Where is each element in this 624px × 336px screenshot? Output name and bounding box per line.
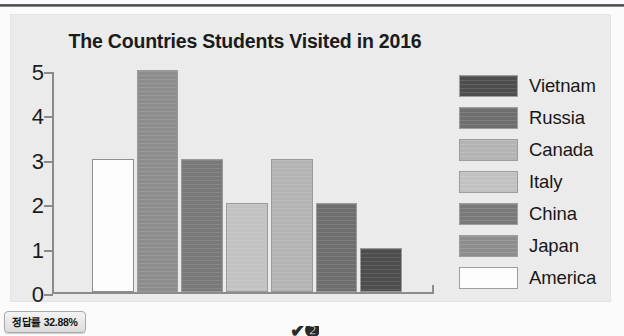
y-axis-tick bbox=[44, 294, 53, 296]
y-axis-tick-label: 3 bbox=[32, 151, 44, 173]
legend-label: Vietnam bbox=[529, 75, 596, 97]
y-axis-tick-label: 1 bbox=[32, 240, 44, 262]
legend-swatch-japan bbox=[459, 235, 518, 257]
legend-label: Russia bbox=[529, 107, 585, 129]
bar-series bbox=[92, 70, 402, 292]
legend-swatch-america bbox=[459, 267, 518, 289]
y-axis-line bbox=[52, 72, 54, 294]
bar-america bbox=[92, 159, 134, 292]
legend-label: China bbox=[529, 203, 577, 225]
legend-swatch-russia bbox=[459, 107, 518, 129]
plot-area: 543210 bbox=[52, 58, 443, 294]
legend-label: Japan bbox=[529, 235, 579, 257]
y-axis-tick-label: 4 bbox=[32, 106, 44, 128]
x-axis-end-cap bbox=[432, 285, 434, 294]
legend-label: Canada bbox=[529, 139, 593, 161]
scanned-page: rate of the students who visited the cou… bbox=[0, 0, 624, 336]
legend-swatch-canada bbox=[459, 139, 518, 161]
y-axis-tick bbox=[44, 161, 53, 163]
legend-item-america: America bbox=[459, 262, 609, 294]
legend-item-russia: Russia bbox=[459, 102, 609, 134]
legend-item-china: China bbox=[459, 198, 609, 230]
page-top-rule bbox=[0, 4, 624, 7]
y-axis-tick bbox=[44, 116, 53, 118]
legend-item-japan: Japan bbox=[459, 230, 609, 262]
legend-swatch-china bbox=[459, 203, 518, 225]
y-axis-tick-label: 0 bbox=[32, 284, 44, 306]
bar-chart-figure: The Countries Students Visited in 2016 5… bbox=[10, 14, 611, 302]
check-mark-icon: ✔❷ bbox=[290, 326, 319, 336]
y-axis-tick bbox=[44, 250, 53, 252]
legend-item-italy: Italy bbox=[459, 166, 609, 198]
legend-label: America bbox=[529, 267, 596, 289]
correct-rate-badge: 정답률 32.88% bbox=[4, 311, 86, 333]
bar-canada bbox=[271, 159, 313, 292]
y-axis-tick-label: 5 bbox=[32, 62, 44, 84]
legend-swatch-italy bbox=[459, 171, 518, 193]
chart-title: The Countries Students Visited in 2016 bbox=[10, 30, 480, 53]
bar-italy bbox=[226, 203, 268, 292]
bar-russia bbox=[316, 203, 358, 292]
legend-label: Italy bbox=[529, 171, 562, 193]
chart-legend: VietnamRussiaCanadaItalyChinaJapanAmeric… bbox=[459, 70, 609, 294]
bar-vietnam bbox=[360, 248, 402, 292]
x-axis-line bbox=[52, 292, 434, 294]
y-axis-tick-label: 2 bbox=[32, 195, 44, 217]
y-axis-tick bbox=[44, 72, 53, 74]
bar-japan bbox=[137, 70, 179, 292]
bar-china bbox=[181, 159, 223, 292]
legend-item-canada: Canada bbox=[459, 134, 609, 166]
y-axis-tick bbox=[44, 205, 53, 207]
legend-item-vietnam: Vietnam bbox=[459, 70, 609, 102]
legend-swatch-vietnam bbox=[459, 75, 518, 97]
